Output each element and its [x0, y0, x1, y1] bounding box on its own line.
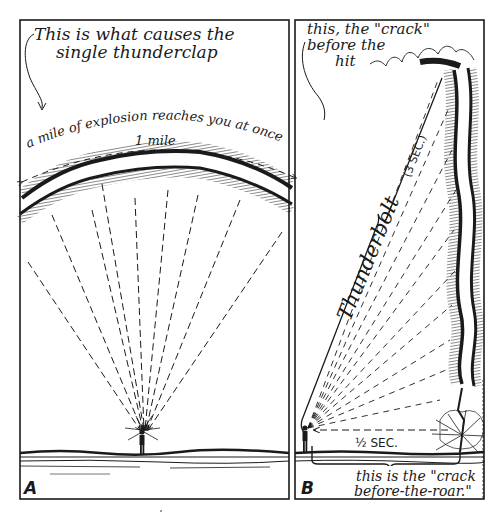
thunderbolt-duration: (3 SEC.): [401, 133, 430, 179]
panel-a-title-line2: single thunderclap: [56, 42, 218, 62]
thunderbolt-label: Thunderbolt: [332, 192, 404, 324]
roar-caption-line2: before-the-roar.": [354, 483, 472, 499]
crack-origin: [420, 61, 460, 66]
panel-b: this, the "crack" before the hit Thunder…: [295, 20, 484, 499]
panel-a-label: A: [22, 478, 37, 498]
panel-a: This is what causes the single thundercl…: [20, 20, 296, 499]
panel-a-title-line1: This is what causes the: [34, 24, 235, 44]
impact-burst-b: [432, 388, 484, 452]
thunderbolt-bands: [448, 68, 480, 386]
roar-caption-line1: this is the "crack: [356, 468, 476, 484]
pointer-squiggle: [25, 34, 42, 108]
crack-caption-line3: hit: [335, 52, 356, 70]
stray-mark: [160, 510, 162, 512]
person-figure-a: [139, 429, 144, 454]
thunder-cloud-arc: [20, 146, 292, 220]
half-second-label: ½ SEC.: [355, 436, 398, 450]
panel-b-label: B: [301, 478, 314, 498]
thunder-diagram: This is what causes the single thundercl…: [0, 0, 494, 519]
sound-rays-a: [28, 184, 282, 430]
panel-a-border: [20, 20, 289, 499]
person-figure-b: [302, 425, 307, 453]
ground-b: [295, 452, 484, 464]
ground-a: [20, 450, 289, 474]
